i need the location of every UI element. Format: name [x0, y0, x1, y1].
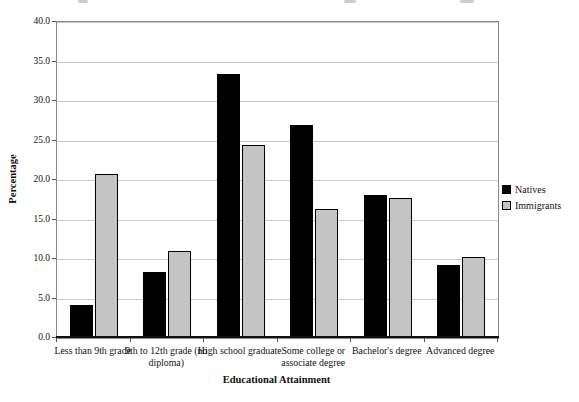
gridline: [57, 141, 498, 142]
bar-natives-2: [217, 74, 240, 338]
legend-item-immigrants: Immigrants: [502, 197, 561, 213]
y-tick-label: 20.0: [0, 173, 50, 185]
y-tick-label: 40.0: [0, 15, 50, 27]
x-tick-mark: [130, 338, 131, 342]
bar-natives-5: [437, 265, 460, 338]
cropped-title-fragment: [460, 0, 474, 3]
bar-chart: Percentage Educational Attainment Native…: [0, 0, 579, 402]
plot-area: [56, 21, 499, 339]
cropped-title-fragment: [344, 0, 356, 3]
legend: NativesImmigrants: [502, 181, 561, 213]
gridline: [57, 299, 498, 300]
y-tick-mark: [52, 179, 56, 180]
bar-natives-0: [70, 305, 93, 338]
bar-immigrants-5: [462, 257, 485, 338]
x-tick-mark: [350, 338, 351, 342]
gridline: [57, 62, 498, 63]
bar-natives-4: [364, 195, 387, 338]
x-tick-mark: [497, 338, 498, 342]
y-tick-mark: [52, 298, 56, 299]
y-tick-mark: [52, 61, 56, 62]
bar-immigrants-1: [168, 251, 191, 338]
bar-immigrants-2: [242, 145, 265, 338]
gridline: [57, 180, 498, 181]
x-axis-title: Educational Attainment: [56, 374, 497, 385]
gridline: [57, 220, 498, 221]
x-category-label: Advanced degree: [417, 345, 503, 357]
y-tick-label: 25.0: [0, 134, 50, 146]
cropped-title-fragment: [78, 0, 88, 3]
bar-natives-3: [290, 125, 313, 338]
gridline: [57, 101, 498, 102]
x-tick-mark: [277, 338, 278, 342]
x-axis-line: [56, 336, 499, 338]
legend-swatch-icon: [502, 201, 511, 210]
y-tick-label: 0.0: [0, 331, 50, 343]
bar-immigrants-0: [95, 174, 118, 338]
y-tick-mark: [52, 140, 56, 141]
bar-immigrants-3: [315, 209, 338, 338]
bar-immigrants-4: [389, 198, 412, 338]
bar-natives-1: [143, 272, 166, 338]
y-tick-mark: [52, 219, 56, 220]
y-tick-label: 35.0: [0, 55, 50, 67]
y-tick-mark: [52, 100, 56, 101]
y-tick-label: 15.0: [0, 213, 50, 225]
gridline: [57, 259, 498, 260]
x-tick-mark: [203, 338, 204, 342]
y-tick-mark: [52, 21, 56, 22]
gridline: [57, 22, 498, 23]
legend-swatch-icon: [502, 185, 511, 194]
legend-item-natives: Natives: [502, 181, 561, 197]
y-tick-label: 30.0: [0, 94, 50, 106]
y-tick-mark: [52, 258, 56, 259]
legend-label: Natives: [515, 184, 546, 195]
x-tick-mark: [56, 338, 57, 342]
y-tick-label: 5.0: [0, 292, 50, 304]
y-tick-label: 10.0: [0, 252, 50, 264]
legend-label: Immigrants: [515, 200, 561, 211]
x-tick-mark: [424, 338, 425, 342]
